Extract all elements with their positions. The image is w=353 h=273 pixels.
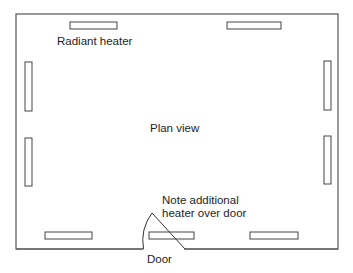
heater-top-left [70, 22, 117, 29]
door-opening-gap [143, 247, 184, 251]
note-line-1: Note additional [162, 194, 246, 207]
plan-view-label: Plan view [150, 122, 199, 135]
heater-over-door [149, 232, 194, 239]
heater-bottom-left [45, 232, 92, 239]
heater-right-upper [324, 61, 331, 110]
heater-bottom-right [250, 232, 298, 239]
heater-top-right [227, 22, 281, 29]
door-label: Door [147, 253, 172, 266]
plan-view-diagram [0, 0, 353, 273]
heater-right-lower [324, 136, 331, 184]
heater-left-lower [25, 138, 32, 186]
note-line-2: heater over door [162, 207, 246, 220]
door-heater-note: Note additional heater over door [162, 194, 246, 220]
radiant-heater-label: Radiant heater [57, 35, 132, 48]
door-swing-arc [143, 213, 152, 249]
heater-left-upper [25, 62, 32, 111]
